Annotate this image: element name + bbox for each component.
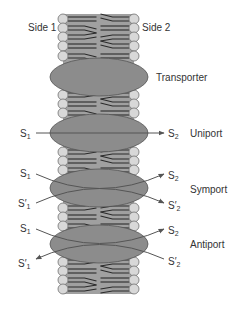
lipid-head (58, 32, 68, 42)
lipid-head (129, 203, 139, 213)
symport-s1prime-label: S′1 (18, 198, 31, 210)
membrane-transport-diagram: Side 1 Side 2 Transporter Uniport Sympor… (0, 0, 239, 313)
lipid-head (129, 108, 139, 118)
lipid-head (58, 23, 68, 33)
lipid-head (58, 266, 68, 276)
lipid-head (58, 99, 68, 109)
lipid-head (58, 284, 68, 294)
side1-label: Side 1 (28, 22, 57, 33)
antiport-s2-label: S2 (168, 225, 179, 237)
lipid-head (129, 32, 139, 42)
symport-s1-label: S1 (20, 168, 31, 180)
lipid-head (129, 275, 139, 285)
symport-label: Symport (190, 184, 227, 195)
lipid-head (129, 156, 139, 166)
lipid-head (129, 23, 139, 33)
lipid-head (58, 51, 68, 61)
symport-s2prime-label: S′2 (168, 200, 181, 212)
uniport-label: Uniport (190, 128, 222, 139)
lipid-head (129, 266, 139, 276)
antiport-s1prime-label: S′1 (18, 258, 31, 270)
uniport-s1-label: S1 (20, 128, 31, 140)
lipid-head (58, 14, 68, 24)
lipid-head (58, 108, 68, 118)
antiport-s2prime-label: S′2 (168, 256, 181, 268)
lipid-head (129, 147, 139, 157)
lipid-head (129, 284, 139, 294)
lipid-head (58, 275, 68, 285)
side2-label: Side 2 (142, 22, 171, 33)
lipid-head (129, 14, 139, 24)
lipid-head (58, 212, 68, 222)
transporter-protein (50, 58, 148, 96)
lipid-head (58, 203, 68, 213)
symport-s2-label: S2 (168, 170, 179, 182)
lipid-head (129, 51, 139, 61)
transporter-label: Transporter (156, 72, 208, 83)
lipid-head (58, 156, 68, 166)
lipid-head (58, 147, 68, 157)
lipid-head (129, 41, 139, 51)
antiport-s1-label: S1 (20, 223, 31, 235)
lipid-head (129, 99, 139, 109)
lipid-head (58, 41, 68, 51)
antiport-label: Antiport (190, 239, 225, 250)
uniport-s2-label: S2 (168, 128, 179, 140)
lipid-head (129, 212, 139, 222)
